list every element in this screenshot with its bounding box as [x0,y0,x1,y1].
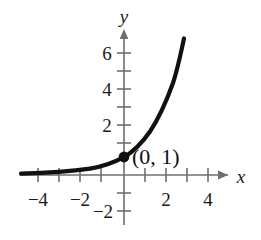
y-axis-label: y [120,7,128,26]
y-tick-label-6: 6 [102,44,112,63]
x-tick-label-minus-2: −2 [70,190,90,209]
y-tick-label-2: 2 [102,116,112,135]
y-tick-label-minus-2: −2 [93,202,113,221]
x-tick-label-2: 2 [161,190,171,209]
x-tick-label-4: 4 [203,190,213,209]
x-axis-label: x [237,167,245,186]
y-axis-arrowhead [120,29,129,39]
point-annotation-0-1: (0, 1) [132,146,180,168]
x-axis-arrowhead [218,171,228,180]
point-marker-0-1 [119,152,130,163]
exponential-function-graph: y x −4 −2 2 4 6 4 2 −2 (0, 1) [0,0,261,240]
x-tick-label-minus-4: −4 [28,190,48,209]
y-tick-label-4: 4 [102,80,112,99]
